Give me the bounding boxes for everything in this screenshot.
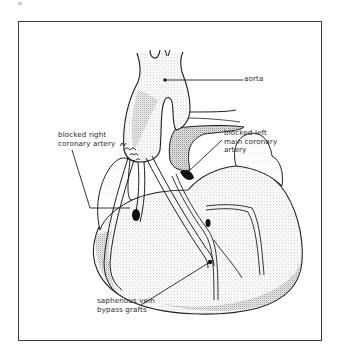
saphenous-vein-grafts-label: saphenous vein bypass grafts xyxy=(97,297,155,314)
aorta-label: aorta xyxy=(244,75,263,84)
blocked-right-coronary-label: blocked right coronary artery xyxy=(58,131,115,148)
blocked-left-main-coronary-label: blocked left main coronary artery xyxy=(224,129,277,155)
heart-illustration xyxy=(0,0,341,363)
